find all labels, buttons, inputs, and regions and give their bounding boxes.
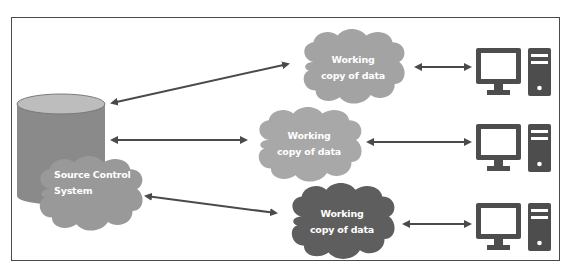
working-copy-1-line2: copy of data — [303, 68, 403, 84]
working-copy-2-line2: copy of data — [259, 144, 359, 160]
source-control-label: Source Control System — [54, 167, 154, 199]
working-copy-label-1: Working copy of data — [303, 52, 403, 84]
source-label-line2: System — [54, 183, 154, 199]
arrow-source-to-wc1 — [112, 64, 288, 103]
working-copy-3-line2: copy of data — [292, 222, 392, 238]
desktop-computer-icon — [476, 124, 551, 172]
working-copy-2-line1: Working — [259, 128, 359, 144]
working-copy-1-line1: Working — [303, 52, 403, 68]
working-copy-label-3: Working copy of data — [292, 206, 392, 238]
working-copy-label-2: Working copy of data — [259, 128, 359, 160]
working-copy-3-line1: Working — [292, 206, 392, 222]
arrow-source-to-wc3 — [146, 196, 276, 213]
desktop-computer-icon — [476, 203, 551, 251]
source-label-line1: Source Control — [54, 167, 154, 183]
desktop-computer-icon — [476, 48, 551, 96]
